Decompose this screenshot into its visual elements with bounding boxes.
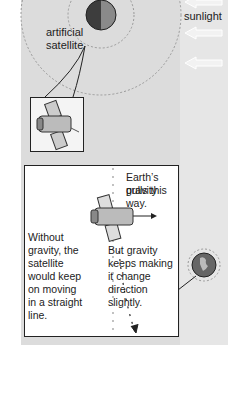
earth-small-icon bbox=[192, 253, 216, 277]
gravity-text-line2: pulls this way. bbox=[126, 184, 178, 210]
without-gravity-text: Without gravity, the satellite would kee… bbox=[28, 231, 118, 322]
but-line: slightly. bbox=[108, 296, 178, 309]
without-line: satellite bbox=[28, 257, 118, 270]
earth-icon bbox=[86, 0, 116, 30]
without-line: Without bbox=[28, 231, 118, 244]
but-line: But gravity bbox=[108, 244, 178, 257]
without-line: line. bbox=[28, 309, 118, 322]
but-gravity-text: But gravity keeps making it change direc… bbox=[108, 244, 178, 309]
without-line: in a straight bbox=[28, 296, 118, 309]
but-line: it change bbox=[108, 270, 178, 283]
satellite-icon bbox=[31, 98, 83, 151]
but-line: direction bbox=[108, 283, 178, 296]
satellite-label-line2: satellite bbox=[46, 39, 83, 52]
satellite-label-line1: artificial bbox=[46, 26, 83, 39]
but-line: keeps making bbox=[108, 257, 178, 270]
without-line: would keep bbox=[28, 270, 118, 283]
sunlight-label: sunlight bbox=[184, 10, 222, 23]
without-line: gravity, the bbox=[28, 244, 118, 257]
without-line: on moving bbox=[28, 283, 118, 296]
gravity-callout: Earth’s gravity pulls this way. Without … bbox=[24, 165, 179, 337]
satellite-inset bbox=[30, 97, 84, 152]
